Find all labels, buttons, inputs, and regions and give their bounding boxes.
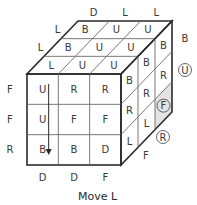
front-sticker: D xyxy=(101,144,109,155)
top-back-label: D xyxy=(90,7,98,18)
top-left-label: L xyxy=(38,42,44,53)
front-bottom-label: D xyxy=(70,172,78,183)
right-sticker: B xyxy=(143,57,150,68)
right-sticker: B xyxy=(126,75,133,86)
right-sticker: B xyxy=(160,40,167,51)
right-sticker: R xyxy=(126,105,133,116)
front-bottom-label: D xyxy=(39,172,47,183)
right-sticker: L xyxy=(144,118,150,129)
front-sticker: F xyxy=(102,114,108,125)
right-sticker: F xyxy=(161,100,167,111)
front-sticker: U xyxy=(39,114,46,125)
front-sticker: F xyxy=(71,114,77,125)
front-sticker: R xyxy=(102,84,109,95)
top-sticker: U xyxy=(110,60,117,71)
right-circled-label: R xyxy=(160,132,167,143)
arrow-head-icon xyxy=(46,149,52,155)
top-sticker: L xyxy=(48,60,54,71)
top-sticker: B xyxy=(65,42,72,53)
front-sticker: B xyxy=(39,144,46,155)
top-sticker: U xyxy=(96,42,103,53)
top-back-label: L xyxy=(122,7,128,18)
right-below-label: F xyxy=(143,150,149,161)
top-sticker: U xyxy=(127,42,134,53)
right-sticker: R xyxy=(143,88,150,99)
right-sticker: R xyxy=(160,70,167,81)
front-left-label: F xyxy=(7,114,13,125)
front-left-label: R xyxy=(7,144,14,155)
top-left-label: L xyxy=(55,24,61,35)
top-sticker: U xyxy=(79,60,86,71)
front-sticker: B xyxy=(71,144,78,155)
front-left-label: F xyxy=(7,84,13,95)
front-bottom-label: F xyxy=(102,172,108,183)
top-back-label: L xyxy=(154,7,160,18)
right-sticker: L xyxy=(127,136,133,147)
front-sticker: R xyxy=(71,84,78,95)
top-sticker: U xyxy=(144,24,151,35)
cube-diagram: URRUFFBBDBUUBUULUUBBBRRRLLFFFRDDFDLLLLBU… xyxy=(0,0,197,205)
top-sticker: B xyxy=(82,24,89,35)
caption-move-l: Move L xyxy=(78,190,118,203)
top-sticker: U xyxy=(113,24,120,35)
front-sticker: U xyxy=(39,84,46,95)
right-circled-label: U xyxy=(181,65,188,76)
right-back-label: B xyxy=(182,33,189,44)
